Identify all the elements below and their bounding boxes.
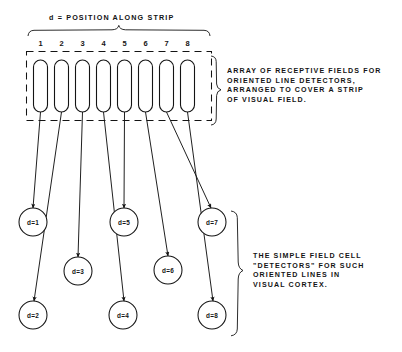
connector-6 — [146, 112, 169, 256]
position-label-2: 2 — [55, 39, 69, 48]
detector-label-8: d=8 — [197, 312, 227, 319]
array-brace — [211, 56, 221, 125]
connector-7 — [167, 112, 212, 208]
detector-label-7: d=7 — [197, 219, 227, 226]
connector-4 — [104, 112, 125, 301]
detector-caption: THE SIMPLE FIELD CELL "DETECTORS" FOR SU… — [253, 252, 364, 290]
connector-5 — [124, 112, 125, 208]
position-label-7: 7 — [160, 39, 174, 48]
connector-8 — [188, 112, 214, 301]
receptive-field-shapes — [34, 60, 195, 112]
receptive-field-1 — [34, 60, 48, 112]
connector-lines — [33, 112, 213, 301]
diagram-canvas — [0, 0, 402, 352]
position-label-1: 1 — [34, 39, 48, 48]
figure-root: d = POSITION ALONG STRIP 1 2 3 4 5 6 7 8… — [0, 0, 402, 352]
receptive-field-5 — [118, 60, 132, 112]
receptive-field-7 — [160, 60, 174, 112]
position-label-3: 3 — [76, 39, 90, 48]
receptive-field-2 — [55, 60, 69, 112]
receptive-field-8 — [181, 60, 195, 112]
detector-label-4: d=4 — [108, 312, 138, 319]
connector-1 — [33, 112, 41, 208]
position-label-4: 4 — [97, 39, 111, 48]
detector-brace — [231, 211, 243, 336]
detector-label-2: d=2 — [18, 312, 48, 319]
detector-label-6: d=6 — [153, 267, 183, 274]
detector-label-5: d=5 — [109, 219, 139, 226]
top-brace — [28, 25, 210, 36]
receptive-field-3 — [76, 60, 90, 112]
array-caption: ARRAY OF RECEPTIVE FIELDS FOR ORIENTED L… — [227, 67, 381, 105]
receptive-field-4 — [97, 60, 111, 112]
position-label-5: 5 — [118, 39, 132, 48]
strip-axis-title: d = POSITION ALONG STRIP — [49, 13, 174, 22]
connector-3 — [78, 112, 83, 257]
receptive-field-6 — [139, 60, 153, 112]
detector-label-1: d=1 — [18, 219, 48, 226]
position-label-6: 6 — [139, 39, 153, 48]
detector-label-3: d=3 — [63, 268, 93, 275]
position-label-8: 8 — [181, 39, 195, 48]
